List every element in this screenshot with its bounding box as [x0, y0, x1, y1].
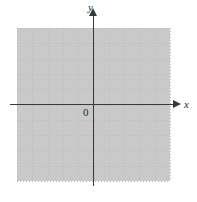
origin-label: 0	[83, 107, 89, 118]
arrow-right-icon	[173, 100, 181, 108]
x-axis-label: x	[184, 99, 189, 110]
y-axis-line	[93, 15, 94, 186]
coordinate-plane-figure: y x 0	[0, 0, 197, 202]
y-axis-label: y	[88, 2, 93, 13]
